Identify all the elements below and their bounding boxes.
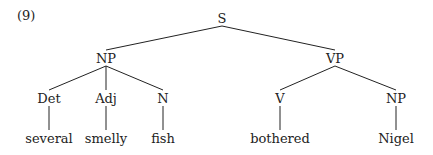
tree-leaf: several bbox=[25, 131, 73, 146]
tree-edge bbox=[106, 26, 222, 50]
tree-edge bbox=[280, 66, 335, 90]
tree-node: NP bbox=[96, 51, 116, 66]
tree-leaf: fish bbox=[151, 131, 175, 146]
tree-leaf: Nigel bbox=[378, 131, 414, 146]
tree-node: V bbox=[275, 91, 284, 106]
tree-edge bbox=[222, 26, 335, 50]
tree-node: Adj bbox=[95, 91, 117, 106]
tree-leaf: bothered bbox=[250, 131, 310, 146]
tree-node: NP bbox=[386, 91, 406, 106]
tree-node: VP bbox=[326, 51, 344, 66]
tree-leaf: smelly bbox=[85, 131, 127, 146]
tree-edge bbox=[49, 66, 106, 90]
tree-node: N bbox=[157, 91, 168, 106]
tree-node: S bbox=[218, 11, 227, 26]
tree-edge bbox=[335, 66, 396, 90]
tree-edge bbox=[106, 66, 163, 90]
tree-node: Det bbox=[37, 91, 60, 106]
